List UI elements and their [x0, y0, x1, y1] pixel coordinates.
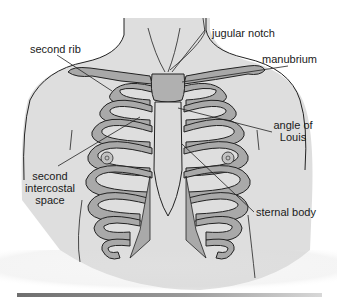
- label-angle-of-louis: angle of Louis: [268, 119, 318, 143]
- manubrium-shape: [151, 74, 184, 102]
- label-second-rib: second rib: [30, 43, 81, 55]
- label-second-intercostal-line3: space: [22, 194, 78, 206]
- chest-anatomy-diagram: second rib jugular notch manubrium angle…: [0, 0, 337, 304]
- label-sternal-body: sternal body: [256, 206, 316, 218]
- label-manubrium: manubrium: [262, 53, 317, 65]
- label-jugular-notch: jugular notch: [212, 27, 275, 39]
- label-second-intercostal-line2: intercostal: [22, 182, 78, 194]
- footer-divider-bar: [17, 293, 322, 297]
- label-angle-of-louis-line1: angle of: [268, 119, 318, 131]
- label-second-intercostal-line1: second: [22, 170, 78, 182]
- label-angle-of-louis-line2: Louis: [268, 131, 318, 143]
- label-second-intercostal-space: second intercostal space: [22, 170, 78, 206]
